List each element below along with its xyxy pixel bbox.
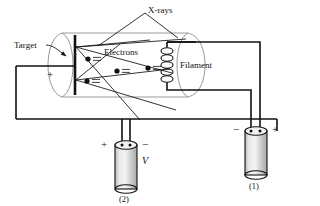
battery-1-right-terminal-sign: +: [272, 123, 278, 135]
electron-particle: [114, 68, 130, 73]
electron-particle: [84, 78, 100, 83]
battery-1-id: (1): [249, 181, 259, 191]
anode-circuit-wire: [16, 66, 277, 131]
electron-particle: [85, 56, 101, 61]
battery-1: [245, 127, 267, 179]
diagram-canvas: + X-rays Target: [0, 0, 320, 206]
battery-2-right-terminal-sign: −: [142, 138, 148, 150]
filament-coil: [161, 48, 173, 83]
battery-2-left-terminal-sign: +: [101, 138, 107, 150]
target-polarity-sign: +: [47, 68, 53, 80]
filament-label: Filament: [180, 60, 212, 70]
battery-2-id: (2): [119, 194, 129, 204]
voltage-label: V: [142, 155, 150, 166]
battery-2: [115, 141, 137, 193]
xray-tube-diagram: + X-rays Target: [0, 0, 320, 206]
target-label: Target: [14, 40, 37, 50]
xrays-label: X-rays: [148, 5, 173, 15]
battery-1-left-terminal-sign: −: [233, 123, 239, 135]
filament-upper-wire: [167, 42, 260, 131]
electrons-label: Electrons: [104, 47, 138, 57]
